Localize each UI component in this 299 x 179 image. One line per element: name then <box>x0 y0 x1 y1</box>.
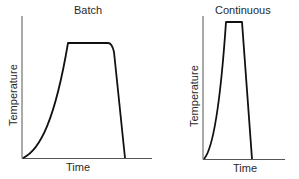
continuous-x-label: Time <box>233 162 257 174</box>
continuous-title: Continuous <box>215 4 271 16</box>
batch-chart <box>22 16 152 159</box>
batch-title: Batch <box>74 4 102 16</box>
batch-curve <box>23 43 125 158</box>
batch-y-label: Temperature <box>7 64 19 126</box>
batch-x-label: Time <box>66 161 90 173</box>
continuous-y-label: Temperature <box>188 65 200 127</box>
diagram-canvas <box>0 0 299 179</box>
continuous-curve <box>204 22 252 159</box>
continuous-chart <box>203 16 285 160</box>
